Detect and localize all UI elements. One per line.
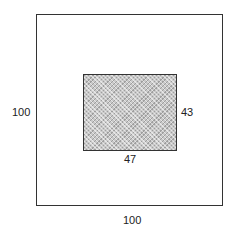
- outer-width-label: 100: [123, 215, 141, 226]
- inner-width-label: 47: [124, 154, 136, 165]
- outer-height-label: 100: [12, 107, 30, 118]
- inner-shaded-rectangle: [83, 74, 177, 151]
- inner-height-label: 43: [181, 107, 193, 118]
